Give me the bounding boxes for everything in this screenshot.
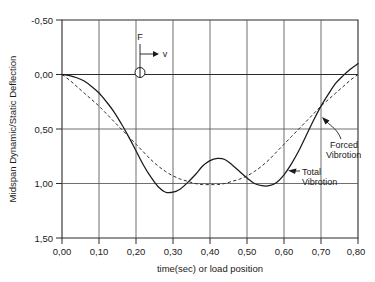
forced-vibration-label-line1: Forced	[330, 140, 358, 150]
total-vibration-label-line2: Vibrotion	[302, 177, 337, 187]
xtick-label-0: 0,00	[53, 246, 72, 257]
xtick-label-3: 0,30	[164, 246, 183, 257]
y-tick-labels: -0,50 0,00 0,50 1,00 1,50	[31, 15, 53, 244]
ytick-label-0: -0,50	[31, 15, 53, 26]
x-tick-marks	[62, 238, 358, 244]
xtick-label-4: 0,40	[201, 246, 220, 257]
ytick-label-4: 1,50	[35, 233, 54, 244]
y-axis-title: Midspan Dynamic/Static Deflection	[7, 56, 18, 203]
ytick-label-2: 0,50	[35, 124, 54, 135]
xtick-label-8: 0,80	[347, 246, 366, 257]
chart-figure: -0,50 0,00 0,50 1,00 1,50 0,00 0,10 0,20…	[0, 0, 375, 282]
x-axis-title: time(sec) or load position	[157, 263, 263, 274]
force-label: F	[137, 32, 143, 42]
ytick-label-1: 0,00	[35, 69, 54, 80]
xtick-label-6: 0,60	[275, 246, 294, 257]
xtick-label-5: 0,50	[238, 246, 257, 257]
velocity-label: v	[163, 49, 168, 59]
xtick-label-7: 0,70	[312, 246, 331, 257]
xtick-label-2: 0,20	[127, 246, 146, 257]
ytick-label-3: 1,00	[35, 178, 54, 189]
x-tick-labels: 0,00 0,10 0,20 0,30 0,40 0,50 0,60 0,70 …	[53, 246, 366, 257]
xtick-label-1: 0,10	[90, 246, 109, 257]
total-vibration-label-line1: Total	[302, 167, 321, 177]
forced-vibration-label-line2: Vibrotion	[326, 150, 361, 160]
chart-svg: -0,50 0,00 0,50 1,00 1,50 0,00 0,10 0,20…	[0, 0, 375, 282]
y-tick-marks	[56, 20, 62, 238]
